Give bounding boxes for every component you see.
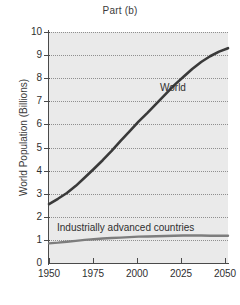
y-tick-mark-4 (44, 171, 50, 172)
y-tick-label-2: 2 (2, 211, 42, 222)
y-tick-mark-2 (44, 217, 50, 218)
x-tick-label-2025: 2025 (158, 268, 204, 279)
y-tick-label-1: 1 (2, 234, 42, 245)
y-tick-label-0: 0 (2, 257, 42, 268)
y-tick-label-8: 8 (2, 72, 42, 83)
x-tick-mark-2025 (181, 258, 182, 264)
gridline-y-1 (49, 240, 228, 241)
y-tick-label-9: 9 (2, 49, 42, 60)
y-tick-mark-7 (44, 101, 50, 102)
gridline-y-8 (49, 78, 228, 79)
x-tick-mark-1975 (93, 258, 94, 264)
gridline-y-5 (49, 148, 228, 149)
y-tick-mark-9 (44, 55, 50, 56)
y-tick-mark-8 (44, 78, 50, 79)
gridline-y-9 (49, 55, 228, 56)
x-tick-mark-2050 (225, 258, 226, 264)
chart-title: Part (b) (0, 5, 240, 16)
gridline-y-6 (49, 124, 228, 125)
y-tick-mark-10 (44, 32, 50, 33)
y-tick-label-10: 10 (2, 26, 42, 37)
x-tick-mark-2000 (137, 258, 138, 264)
gridline-y-2 (49, 217, 228, 218)
x-tick-label-2050: 2050 (202, 268, 240, 279)
series-label-industrially-advanced: Industrially advanced countries (57, 222, 194, 233)
y-tick-mark-5 (44, 148, 50, 149)
x-tick-label-1950: 1950 (26, 268, 72, 279)
x-tick-label-2000: 2000 (114, 268, 160, 279)
y-tick-label-4: 4 (2, 165, 42, 176)
gridline-y-7 (49, 101, 228, 102)
y-tick-label-5: 5 (2, 142, 42, 153)
gridline-y-10 (49, 32, 228, 33)
x-axis-line (48, 263, 229, 264)
series-label-world: World (160, 82, 186, 93)
y-tick-mark-1 (44, 240, 50, 241)
gridline-y-3 (49, 194, 228, 195)
gridline-y-4 (49, 171, 228, 172)
x-tick-label-1975: 1975 (70, 268, 116, 279)
y-tick-label-6: 6 (2, 118, 42, 129)
chart-figure: Part (b) World Population (Billions) 10 … (0, 0, 240, 305)
x-tick-mark-1950 (49, 258, 50, 264)
y-tick-mark-6 (44, 124, 50, 125)
y-tick-mark-3 (44, 194, 50, 195)
y-tick-label-3: 3 (2, 188, 42, 199)
y-tick-label-7: 7 (2, 95, 42, 106)
